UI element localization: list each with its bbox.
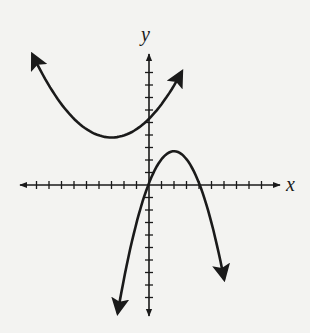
axes <box>20 54 280 316</box>
chart: x y <box>0 0 310 333</box>
plot-area <box>0 0 310 333</box>
y-axis-label: y <box>141 24 150 44</box>
upward-parabola-curve <box>33 55 182 138</box>
x-axis-label: x <box>286 174 295 194</box>
downward-parabola-curve <box>118 151 224 312</box>
